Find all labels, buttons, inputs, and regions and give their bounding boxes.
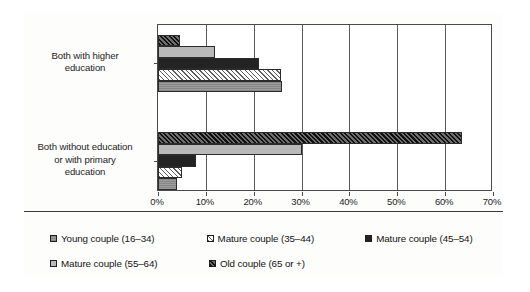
x-axis-tick-label: 40% bbox=[328, 196, 368, 207]
category-label-line: or with primary bbox=[21, 154, 149, 167]
gridline-30% bbox=[302, 25, 303, 190]
x-axis-tick-label: 0% bbox=[137, 196, 177, 207]
legend-label: Mature couple (35–44) bbox=[218, 233, 314, 244]
bar bbox=[158, 167, 182, 179]
gridline-20% bbox=[254, 25, 255, 190]
category-label: Both with highereducation bbox=[21, 50, 149, 75]
x-axis-tick-label: 50% bbox=[376, 196, 416, 207]
legend-item[interactable]: Old couple (65 or +) bbox=[209, 258, 370, 269]
legend-row: Young couple (16–34)Mature couple (35–44… bbox=[50, 226, 503, 251]
legend-label: Mature couple (55–64) bbox=[61, 258, 157, 269]
x-axis-tick-label: 70% bbox=[472, 196, 512, 207]
bar bbox=[158, 35, 180, 47]
legend-label: Mature couple (45–54) bbox=[376, 233, 472, 244]
legend-item[interactable]: Mature couple (35–44) bbox=[207, 233, 366, 244]
category-label: Both without educationor with primaryedu… bbox=[21, 141, 149, 179]
category-label-line: education bbox=[21, 62, 149, 75]
y-axis-tick bbox=[154, 161, 158, 162]
bar bbox=[158, 69, 281, 81]
plot-area bbox=[157, 24, 492, 191]
legend-row: Mature couple (55–64)Old couple (65 or +… bbox=[50, 251, 503, 276]
bar bbox=[158, 46, 215, 58]
category-label-line: Both without education bbox=[21, 141, 149, 154]
bar bbox=[158, 132, 462, 144]
chart-legend: Young couple (16–34)Mature couple (35–44… bbox=[24, 212, 503, 276]
legend-swatch-icon bbox=[50, 260, 57, 267]
y-axis-tick bbox=[154, 63, 158, 64]
legend-swatch-icon bbox=[365, 235, 372, 242]
legend-label: Old couple (65 or +) bbox=[220, 258, 305, 269]
bar bbox=[158, 178, 177, 190]
x-axis-tick-label: 10% bbox=[185, 196, 225, 207]
bar bbox=[158, 81, 282, 93]
legend-swatch-icon bbox=[207, 235, 214, 242]
legend-item[interactable]: Mature couple (45–54) bbox=[365, 233, 503, 244]
bar bbox=[158, 144, 302, 156]
legend-swatch-icon bbox=[50, 235, 57, 242]
legend-swatch-icon bbox=[209, 260, 216, 267]
gridline-40% bbox=[349, 25, 350, 190]
bar bbox=[158, 155, 196, 167]
bar bbox=[158, 58, 259, 70]
legend-item[interactable]: Mature couple (55–64) bbox=[50, 258, 209, 269]
gridline-60% bbox=[445, 25, 446, 190]
x-axis-tick-label: 20% bbox=[233, 196, 273, 207]
gridline-50% bbox=[397, 25, 398, 190]
x-axis-tick-label: 30% bbox=[281, 196, 321, 207]
legend-item[interactable]: Young couple (16–34) bbox=[50, 233, 207, 244]
legend-label: Young couple (16–34) bbox=[61, 233, 155, 244]
category-label-line: Both with higher bbox=[21, 50, 149, 63]
x-axis-tick-label: 60% bbox=[424, 196, 464, 207]
chart-figure: 0%10%20%30%40%50%60%70% Both with higher… bbox=[24, 13, 503, 276]
category-label-line: education bbox=[21, 166, 149, 179]
